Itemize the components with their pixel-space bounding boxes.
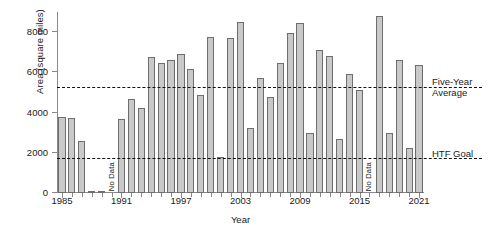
x-tick-minor bbox=[260, 193, 261, 197]
x-tick-minor bbox=[201, 193, 202, 197]
x-tick-minor bbox=[330, 193, 331, 197]
x-tick-label: 2015 bbox=[349, 196, 370, 206]
chart-figure: Area (square miles) 02000400060008000 19… bbox=[0, 0, 495, 244]
no-data-label: No Data bbox=[365, 162, 373, 191]
bar bbox=[267, 97, 274, 193]
x-tick-label: 1997 bbox=[170, 196, 191, 206]
x-tick-minor bbox=[102, 193, 103, 197]
x-tick-label: 1985 bbox=[51, 196, 72, 206]
y-tick bbox=[52, 192, 57, 193]
y-tick-label: 8000 bbox=[27, 27, 48, 37]
bar bbox=[237, 22, 244, 193]
reference-label-line2: Average bbox=[432, 87, 472, 98]
bar bbox=[396, 60, 403, 193]
x-tick-minor bbox=[92, 193, 93, 197]
reference-label-line1: Five-Year bbox=[432, 76, 472, 87]
bar bbox=[128, 99, 135, 193]
bar bbox=[287, 33, 294, 193]
x-tick-label: 2021 bbox=[408, 196, 429, 206]
bar bbox=[167, 60, 174, 193]
y-tick bbox=[52, 112, 57, 113]
x-tick-minor bbox=[151, 193, 152, 197]
bar bbox=[415, 65, 422, 193]
bar bbox=[88, 191, 95, 193]
bar bbox=[68, 118, 75, 193]
x-tick-minor bbox=[280, 193, 281, 197]
bar bbox=[247, 128, 254, 193]
y-tick bbox=[52, 31, 57, 32]
plot-area: 02000400060008000 1985199119972003200920… bbox=[57, 12, 424, 193]
bar bbox=[356, 90, 363, 193]
bar bbox=[118, 119, 125, 193]
bar bbox=[376, 16, 383, 193]
y-tick bbox=[52, 152, 57, 153]
x-axis-title: Year bbox=[57, 214, 424, 225]
y-tick-label: 0 bbox=[43, 188, 48, 198]
bar bbox=[386, 133, 393, 193]
reference-label-htf-goal: HTF Goal bbox=[432, 148, 473, 159]
x-tick-minor bbox=[141, 193, 142, 197]
x-tick-minor bbox=[82, 193, 83, 197]
bar bbox=[296, 23, 303, 193]
x-tick-label: 2003 bbox=[230, 196, 251, 206]
x-tick-minor bbox=[399, 193, 400, 197]
y-tick-label: 4000 bbox=[27, 108, 48, 118]
bar bbox=[217, 157, 224, 193]
bar bbox=[227, 38, 234, 193]
bar bbox=[406, 148, 413, 193]
y-tick bbox=[52, 71, 57, 72]
bar bbox=[316, 50, 323, 193]
y-tick-label: 6000 bbox=[27, 68, 48, 78]
bar bbox=[207, 37, 214, 193]
bar bbox=[98, 191, 105, 193]
bar bbox=[177, 54, 184, 193]
x-tick-label: 2009 bbox=[289, 196, 310, 206]
x-tick-minor bbox=[211, 193, 212, 197]
x-tick-minor bbox=[221, 193, 222, 197]
reference-line-htf-goal bbox=[57, 158, 482, 159]
x-tick-minor bbox=[270, 193, 271, 197]
x-tick-minor bbox=[389, 193, 390, 197]
x-tick-minor bbox=[379, 193, 380, 197]
bar bbox=[158, 63, 165, 193]
reference-line-five-year-average bbox=[57, 87, 482, 88]
reference-label-five-year-average: Five-YearAverage bbox=[432, 76, 472, 98]
bar bbox=[326, 56, 333, 193]
bar bbox=[277, 63, 284, 193]
bar bbox=[257, 78, 264, 193]
bar bbox=[306, 133, 313, 193]
x-tick-minor bbox=[320, 193, 321, 197]
bar bbox=[58, 117, 65, 193]
bar bbox=[78, 141, 85, 193]
bar bbox=[138, 108, 145, 193]
bar bbox=[346, 74, 353, 193]
bar bbox=[148, 57, 155, 193]
y-tick-label: 2000 bbox=[27, 148, 48, 158]
bar bbox=[336, 139, 343, 193]
bar bbox=[197, 95, 204, 193]
x-tick-minor bbox=[161, 193, 162, 197]
x-tick-minor bbox=[340, 193, 341, 197]
x-tick-label: 1991 bbox=[111, 196, 132, 206]
no-data-label: No Data bbox=[108, 162, 116, 191]
